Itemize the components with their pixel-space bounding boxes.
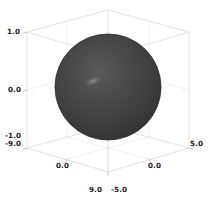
z-tick-label-mid: 0.0 (8, 86, 21, 94)
plot-svg (0, 0, 210, 206)
y-tick-label-right: 5.0 (190, 140, 203, 148)
sphere-surface (55, 34, 161, 140)
y-tick-label-mid: 0.0 (148, 162, 161, 170)
z-tick-label-top: 1.0 (7, 28, 20, 36)
x-tick-label-left: -9.0 (5, 140, 21, 148)
y-tick-label-left: -5.0 (111, 186, 127, 194)
x-tick-label-mid: 0.0 (56, 162, 69, 170)
plot-canvas: 1.0 0.0 -1.0 -9.0 0.0 9.0 -5.0 0.0 5.0 (0, 0, 210, 206)
x-tick-label-right: 9.0 (89, 186, 102, 194)
